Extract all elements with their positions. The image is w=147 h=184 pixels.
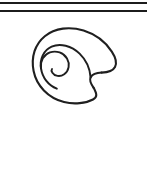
top-rule-line — [0, 2, 147, 4]
shell-inner-whorl-path — [41, 45, 91, 89]
figure-page — [0, 0, 147, 184]
second-rule-line — [0, 10, 147, 12]
shell-outer-whorl-path — [33, 28, 116, 103]
shell-aperture-point-path — [90, 73, 101, 88]
blank-lower-region — [0, 110, 147, 184]
shell-core-coil-path — [41, 52, 69, 76]
